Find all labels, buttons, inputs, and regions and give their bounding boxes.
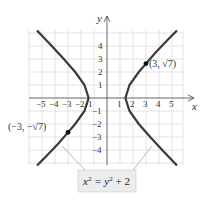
svg-text:5: 5 bbox=[169, 99, 174, 109]
svg-text:3: 3 bbox=[98, 54, 103, 64]
svg-text:−2: −2 bbox=[92, 119, 102, 129]
svg-text:−2: −2 bbox=[75, 99, 85, 109]
grid bbox=[29, 30, 183, 165]
svg-text:−4: −4 bbox=[92, 145, 102, 155]
svg-text:−3: −3 bbox=[62, 99, 72, 109]
hyperbola-chart: x y −5 −4 −3 −2 -1 1 2 3 4 5 4 3 2 1 −1 … bbox=[0, 0, 211, 200]
svg-text:−4: −4 bbox=[49, 99, 59, 109]
svg-text:4: 4 bbox=[156, 99, 161, 109]
equation-callout: x2 = y2 + 2 bbox=[78, 170, 136, 192]
point-neg3-negsqrt7-label: (−3, −√7) bbox=[8, 121, 46, 133]
point-3-sqrt7-label: (3, √7) bbox=[149, 58, 176, 70]
point-neg3-negsqrt7 bbox=[66, 130, 71, 135]
svg-text:−1: −1 bbox=[92, 106, 102, 116]
svg-text:−3: −3 bbox=[92, 132, 102, 142]
svg-text:−5: −5 bbox=[36, 99, 46, 109]
svg-text:1: 1 bbox=[117, 99, 122, 109]
svg-text:2: 2 bbox=[130, 99, 135, 109]
svg-text:2: 2 bbox=[98, 67, 103, 77]
svg-text:3: 3 bbox=[143, 99, 148, 109]
x-axis-label: x bbox=[191, 100, 197, 112]
y-axis-label: y bbox=[96, 12, 102, 24]
point-3-sqrt7 bbox=[144, 61, 149, 66]
x-tick-labels: −5 −4 −3 −2 -1 1 2 3 4 5 bbox=[36, 99, 174, 109]
svg-text:1: 1 bbox=[98, 80, 103, 90]
svg-text:4: 4 bbox=[98, 41, 103, 51]
